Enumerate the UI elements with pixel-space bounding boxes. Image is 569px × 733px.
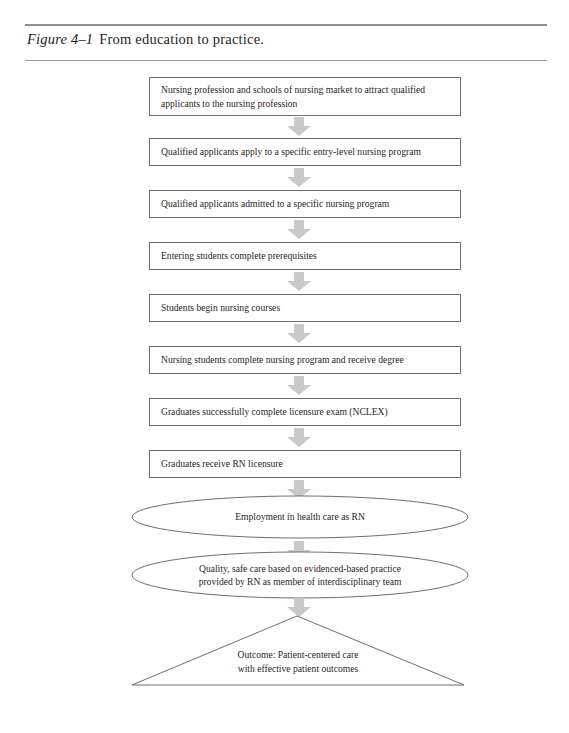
- node-text-line: Outcome: Patient-centered care: [130, 648, 466, 662]
- node-text-line: Entering students complete prerequisites: [161, 249, 317, 263]
- node-text: Graduates receive RN licensure: [150, 457, 291, 471]
- node-text: Students begin nursing courses: [150, 301, 288, 315]
- down-block-arrow-icon: [286, 117, 312, 137]
- step-quality-safe-care[interactable]: Quality, safe care based on evidenced-ba…: [131, 551, 469, 599]
- down-block-arrow-icon: [286, 272, 312, 292]
- node-text: Nursing profession and schools of nursin…: [150, 83, 433, 110]
- down-block-arrow-icon: [286, 168, 312, 188]
- step-receive-rn-licensure[interactable]: Graduates receive RN licensure: [149, 450, 461, 478]
- step-complete-prerequisites[interactable]: Entering students complete prerequisites: [149, 242, 461, 270]
- step-outcome-patient-centered-care[interactable]: Outcome: Patient-centered care with effe…: [130, 610, 466, 692]
- step-admitted-to-nursing-program[interactable]: Qualified applicants admitted to a speci…: [149, 190, 461, 218]
- step-complete-program-receive-degree[interactable]: Nursing students complete nursing progra…: [149, 346, 461, 374]
- node-text: Graduates successfully complete licensur…: [150, 405, 396, 419]
- node-text-line: with effective patient outcomes: [130, 662, 466, 676]
- node-text-line: Students begin nursing courses: [161, 301, 280, 315]
- down-block-arrow-icon: [286, 220, 312, 240]
- node-text-line: applicants to the nursing profession: [161, 97, 425, 111]
- down-block-arrow-icon: [286, 428, 312, 448]
- step-employment-in-health-care[interactable]: Employment in health care as RN: [131, 495, 469, 539]
- node-text-line: Qualified applicants apply to a specific…: [161, 145, 421, 159]
- step-apply-to-entry-level-program[interactable]: Qualified applicants apply to a specific…: [149, 138, 461, 166]
- step-complete-nclex-exam[interactable]: Graduates successfully complete licensur…: [149, 398, 461, 426]
- node-text: Outcome: Patient-centered care with effe…: [130, 648, 466, 675]
- node-text-line: Nursing students complete nursing progra…: [161, 353, 404, 367]
- step-begin-nursing-courses[interactable]: Students begin nursing courses: [149, 294, 461, 322]
- node-text-line: Employment in health care as RN: [235, 510, 365, 524]
- node-text: Entering students complete prerequisites: [150, 249, 325, 263]
- node-text: Nursing students complete nursing progra…: [150, 353, 412, 367]
- node-text: Quality, safe care based on evidenced-ba…: [131, 551, 469, 599]
- node-text-line: Nursing profession and schools of nursin…: [161, 83, 425, 97]
- flowchart: Nursing profession and schools of nursin…: [0, 0, 569, 733]
- down-block-arrow-icon: [286, 324, 312, 344]
- step-market-to-attract-applicants[interactable]: Nursing profession and schools of nursin…: [149, 77, 461, 116]
- node-text: Employment in health care as RN: [131, 495, 469, 539]
- node-text-line: Qualified applicants admitted to a speci…: [161, 197, 389, 211]
- node-text-line: provided by RN as member of interdiscipl…: [199, 575, 402, 589]
- node-text: Qualified applicants apply to a specific…: [150, 145, 429, 159]
- node-text-line: Graduates successfully complete licensur…: [161, 405, 388, 419]
- node-text: Qualified applicants admitted to a speci…: [150, 197, 397, 211]
- down-block-arrow-icon: [286, 376, 312, 396]
- node-text-line: Graduates receive RN licensure: [161, 457, 283, 471]
- node-text-line: Quality, safe care based on evidenced-ba…: [199, 562, 401, 576]
